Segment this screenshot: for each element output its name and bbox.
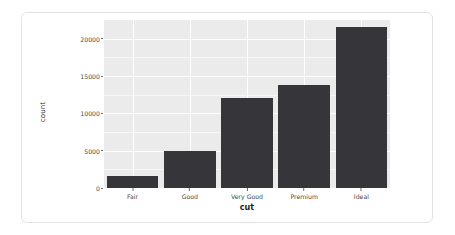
plot-panel bbox=[104, 20, 390, 188]
x-tick-mark-3 bbox=[304, 188, 305, 191]
y-tick-label-1: 5000 bbox=[84, 147, 100, 154]
y-tick-mark-4 bbox=[101, 38, 104, 39]
x-axis-title: cut bbox=[104, 203, 390, 212]
bar-very-good[interactable] bbox=[221, 98, 272, 188]
y-tick-label-4: 20000 bbox=[80, 35, 100, 42]
x-tick-mark-4 bbox=[361, 188, 362, 191]
x-tick-label-1: Good bbox=[182, 193, 198, 200]
bar-premium[interactable] bbox=[278, 85, 329, 188]
x-tick-4: Ideal bbox=[354, 188, 369, 200]
x-tick-2: Very Good bbox=[231, 188, 263, 200]
x-tick-0: Fair bbox=[127, 188, 138, 200]
y-tick-label-2: 10000 bbox=[80, 110, 100, 117]
bar-ideal[interactable] bbox=[336, 27, 387, 188]
y-tick-mark-1 bbox=[101, 150, 104, 151]
x-tick-1: Good bbox=[182, 188, 198, 200]
y-tick-mark-2 bbox=[101, 113, 104, 114]
bar-fair[interactable] bbox=[107, 176, 158, 188]
x-tick-mark-1 bbox=[189, 188, 190, 191]
screenshot-root: count 0 5000 10000 15000 bbox=[0, 0, 455, 235]
x-tick-label-2: Very Good bbox=[231, 193, 263, 200]
y-axis-title: count bbox=[39, 77, 47, 147]
y-tick-mark-0 bbox=[101, 188, 104, 189]
x-tick-label-0: Fair bbox=[127, 193, 138, 200]
y-tick-3: 15000 bbox=[80, 73, 100, 80]
y-tick-4: 20000 bbox=[80, 35, 100, 42]
x-tick-3: Premium bbox=[290, 188, 318, 200]
x-tick-mark-0 bbox=[132, 188, 133, 191]
x-tick-label-4: Ideal bbox=[354, 193, 369, 200]
chart-card: count 0 5000 10000 15000 bbox=[21, 12, 433, 223]
x-axis-ticks: FairGoodVery GoodPremiumIdeal bbox=[104, 188, 390, 204]
bar-good[interactable] bbox=[164, 151, 215, 188]
y-axis-ticks: 0 5000 10000 15000 20000 bbox=[66, 13, 100, 188]
y-tick-label-0: 0 bbox=[96, 185, 100, 192]
y-tick-1: 5000 bbox=[84, 147, 100, 154]
bar-chart: count 0 5000 10000 15000 bbox=[22, 13, 432, 222]
y-tick-0: 0 bbox=[96, 185, 100, 192]
y-tick-2: 10000 bbox=[80, 110, 100, 117]
bars-layer bbox=[104, 20, 390, 188]
x-tick-mark-2 bbox=[247, 188, 248, 191]
x-tick-label-3: Premium bbox=[290, 193, 318, 200]
y-tick-label-3: 15000 bbox=[80, 73, 100, 80]
y-tick-mark-3 bbox=[101, 76, 104, 77]
